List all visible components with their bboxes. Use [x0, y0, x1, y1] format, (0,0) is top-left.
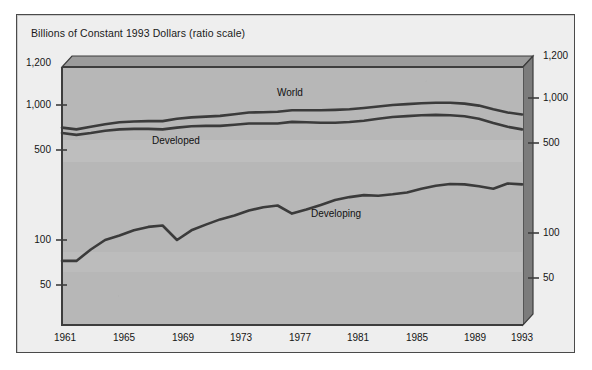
- y-tick-label-1200: 1,200: [0, 57, 51, 68]
- series-label-developed: Developed: [152, 135, 200, 146]
- x-tick-label-1965: 1965: [104, 332, 144, 343]
- x-tick-label-1969: 1969: [163, 332, 203, 343]
- y-tick-label-right-1200: 1,200: [543, 50, 568, 61]
- y-tick-label-right-100: 100: [543, 227, 560, 238]
- x-tick-label-1981: 1981: [338, 332, 378, 343]
- y-tick-label-right-1000: 1,000: [543, 92, 568, 103]
- plot-3d-box: [0, 0, 592, 370]
- chart-figure: Billions of Constant 1993 Dollars (ratio…: [0, 0, 592, 370]
- x-tick-label-1977: 1977: [280, 332, 320, 343]
- y-tick-label-500: 500: [0, 144, 51, 155]
- y-tick-label-right-50: 50: [543, 272, 554, 283]
- x-tick-label-1961: 1961: [45, 332, 85, 343]
- y-tick-label-1000: 1,000: [0, 99, 51, 110]
- y-tick-label-right-500: 500: [543, 137, 560, 148]
- x-tick-label-1989: 1989: [455, 332, 495, 343]
- y-tick-label-100: 100: [0, 234, 51, 245]
- series-label-developing: Developing: [311, 208, 361, 219]
- x-tick-label-1985: 1985: [397, 332, 437, 343]
- y-tick-label-50: 50: [0, 279, 51, 290]
- x-tick-label-1993: 1993: [502, 332, 542, 343]
- series-label-world: World: [277, 87, 303, 98]
- x-tick-label-1973: 1973: [221, 332, 261, 343]
